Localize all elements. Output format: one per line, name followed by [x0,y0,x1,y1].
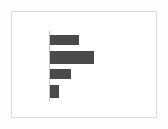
bar-item[interactable] [50,51,94,64]
bar-item[interactable] [50,85,59,98]
plot-area [12,12,158,119]
chart-card-frame [11,11,157,118]
bar-item[interactable] [50,69,71,79]
bar-item[interactable] [50,35,79,45]
screenshot-root [0,0,168,129]
